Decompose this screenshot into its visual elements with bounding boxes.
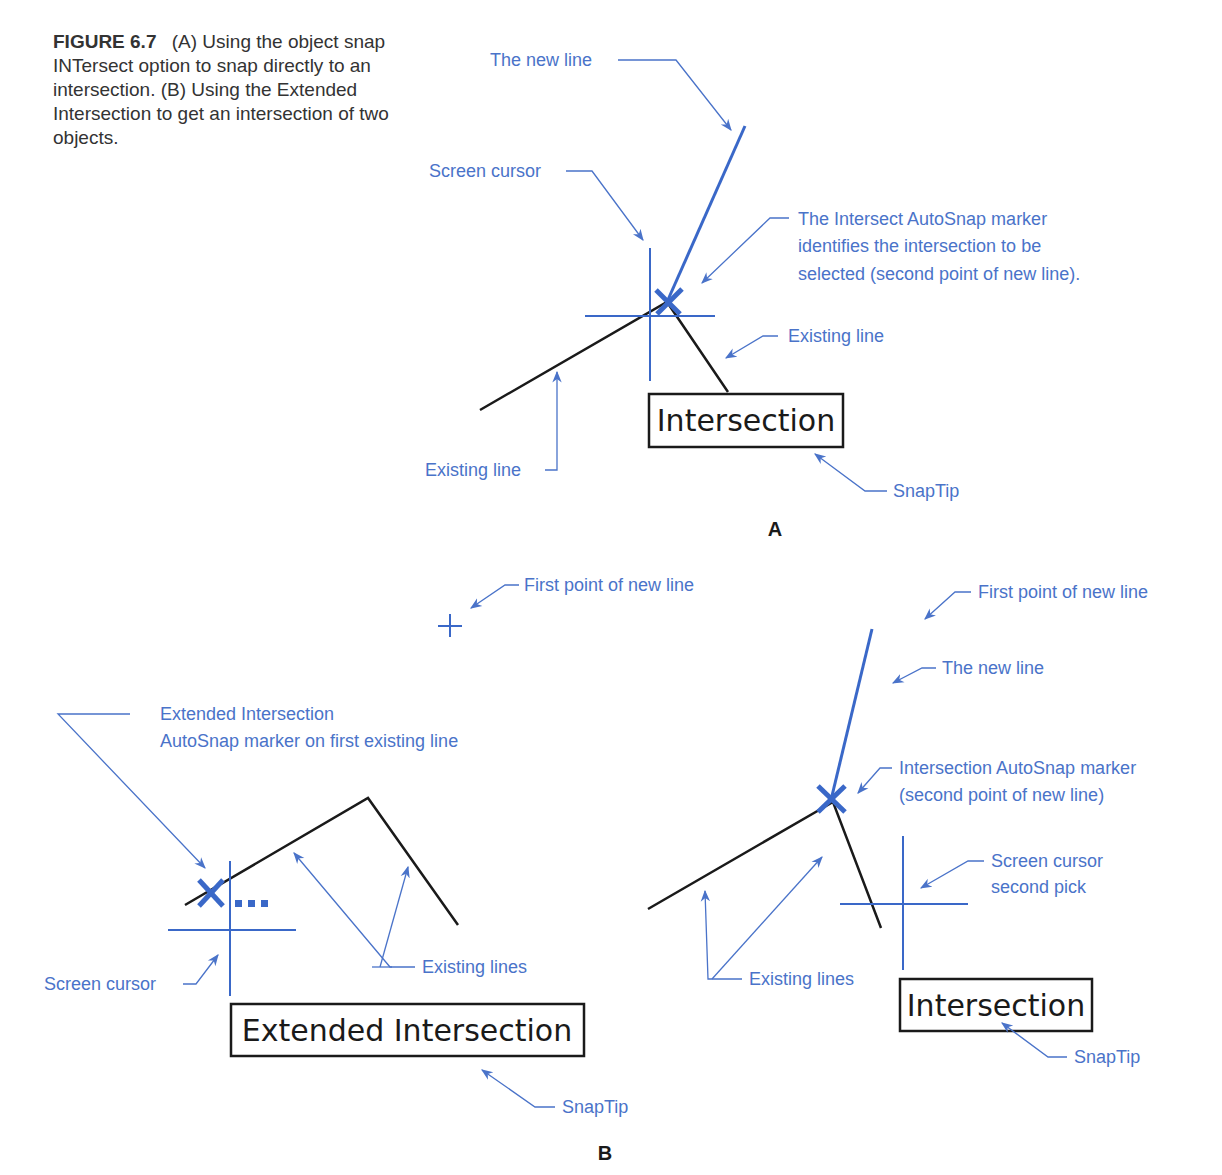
label-screen-cursor-b-left: Screen cursor bbox=[44, 974, 156, 994]
label-cursor-b-right-2: second pick bbox=[991, 877, 1087, 897]
label-new-line-a: The new line bbox=[490, 50, 592, 70]
screen-cursor-crosshair-a bbox=[585, 248, 715, 381]
label-snaptip-a: SnapTip bbox=[893, 481, 959, 501]
new-line-a bbox=[667, 126, 745, 302]
label-marker-b-1: Intersection AutoSnap marker bbox=[899, 758, 1136, 778]
existing-lines-b-right bbox=[648, 802, 881, 928]
label-marker-a-3: selected (second point of new line). bbox=[798, 264, 1080, 284]
label-marker-b-2: (second point of new line) bbox=[899, 785, 1104, 805]
existing-lines-b-left bbox=[185, 798, 458, 925]
panel-b-right: First point of new line The new line Int… bbox=[648, 582, 1148, 1067]
label-marker-a-2: identifies the intersection to be bbox=[798, 236, 1041, 256]
label-screen-cursor-a: Screen cursor bbox=[429, 161, 541, 181]
label-snaptip-b-right: SnapTip bbox=[1074, 1047, 1140, 1067]
first-point-cross-icon bbox=[438, 614, 462, 637]
label-marker-a-1: The Intersect AutoSnap marker bbox=[798, 209, 1047, 229]
panel-a: Intersection The new line Screen cursor … bbox=[425, 50, 1080, 540]
label-existing-lines-b-right: Existing lines bbox=[749, 969, 854, 989]
label-ext-marker-1: Extended Intersection bbox=[160, 704, 334, 724]
intersection-diagram: Intersection The new line Screen cursor … bbox=[0, 0, 1222, 1175]
label-first-point-b-right: First point of new line bbox=[978, 582, 1148, 602]
label-cursor-b-right-1: Screen cursor bbox=[991, 851, 1103, 871]
intersect-marker-b-icon bbox=[818, 786, 845, 812]
panel-label-a: A bbox=[768, 518, 782, 540]
screen-cursor-crosshair-b-left bbox=[168, 861, 296, 996]
label-first-point-b-left: First point of new line bbox=[524, 575, 694, 595]
label-snaptip-b-left: SnapTip bbox=[562, 1097, 628, 1117]
label-existing-line-a-right: Existing line bbox=[788, 326, 884, 346]
extended-intersection-marker-icon bbox=[199, 880, 268, 907]
label-new-line-b-right: The new line bbox=[942, 658, 1044, 678]
intersect-marker-icon bbox=[656, 289, 682, 314]
label-existing-lines-b-left: Existing lines bbox=[422, 957, 527, 977]
screen-cursor-crosshair-b-right bbox=[840, 836, 968, 970]
label-ext-marker-2: AutoSnap marker on first existing line bbox=[160, 731, 458, 751]
new-line-b-right bbox=[831, 629, 872, 800]
snaptip-box-a-text: Intersection bbox=[657, 403, 835, 438]
snaptip-box-b-left-text: Extended Intersection bbox=[242, 1013, 572, 1048]
label-existing-line-a-left: Existing line bbox=[425, 460, 521, 480]
snaptip-box-b-right-text: Intersection bbox=[907, 988, 1085, 1023]
panel-b-left: First point of new line Extended Interse… bbox=[44, 575, 694, 1164]
panel-label-b: B bbox=[598, 1142, 612, 1164]
